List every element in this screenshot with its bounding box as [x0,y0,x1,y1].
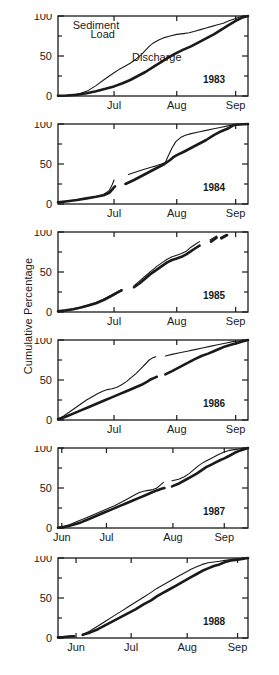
x-tick-label: Sep [226,423,246,435]
series-annotation: Load [90,28,114,40]
panel-1988: 050100JunJulAugSep1988 [0,556,279,660]
year-label: 1985 [203,290,226,301]
x-tick-label: Jul [124,641,138,653]
series-discharge [58,636,74,637]
y-tick-label: 100 [34,556,52,564]
x-tick-label: Sep [214,531,234,543]
series-discharge [134,246,200,288]
panel-1986: 050100JulAugSep1986 [0,338,279,442]
y-tick-label: 50 [40,482,52,494]
plot-1983: 050100JulAugSepSedimentLoadDischarge1983 [0,14,279,118]
x-tick-label: Sep [226,207,246,219]
x-tick-label: Aug [177,641,197,653]
x-tick-label: Sep [226,315,246,327]
panel-1987: 050100JunJulAugSep1987 [0,446,279,550]
y-tick-label: 100 [34,14,52,22]
x-tick-label: Aug [167,315,187,327]
series-sediment-load [58,482,163,527]
y-tick-label: 50 [40,50,52,62]
y-tick-label: 100 [34,230,52,238]
y-tick-label: 50 [40,266,52,278]
y-tick-label: 50 [40,592,52,604]
plot-1985: 050100JulAugSep1985 [0,230,279,334]
series-discharge [58,377,157,419]
panel-1985: 050100JulAugSep1985 [0,230,279,334]
x-tick-label: Aug [163,531,183,543]
series-discharge [172,448,248,486]
x-tick-label: Jun [53,531,71,543]
series-sediment-load [58,290,122,312]
x-tick-label: Aug [167,207,187,219]
year-label: 1987 [203,506,226,517]
series-discharge [58,290,122,311]
y-tick-label: 100 [34,122,52,130]
x-tick-label: Jul [107,315,121,327]
panel-1984: 050100JulAugSep1984 [0,122,279,226]
y-tick-label: 100 [34,446,52,454]
series-discharge [211,238,217,242]
y-tick-label: 0 [46,522,52,534]
series-annotation: Discharge [132,51,182,63]
year-label: 1986 [203,398,226,409]
x-tick-label: Aug [167,423,187,435]
x-tick-label: Jul [99,531,113,543]
y-tick-label: 0 [46,632,52,644]
series-discharge [221,235,227,238]
x-tick-label: Sep [228,641,248,653]
x-tick-label: Jul [107,207,121,219]
cumulative-percentage-figure: Cumulative Percentage 050100JulAugSepSed… [0,0,279,675]
plot-1984: 050100JulAugSep1984 [0,122,279,226]
plot-1987: 050100JunJulAugSep1987 [0,446,279,550]
series-discharge [58,488,164,528]
y-tick-label: 0 [46,306,52,318]
x-tick-label: Sep [226,99,246,111]
series-discharge [165,340,248,374]
x-tick-label: Jul [107,423,121,435]
y-tick-label: 0 [46,90,52,102]
series-sediment-load [58,357,156,419]
year-label: 1983 [203,74,226,85]
x-tick-label: Jul [107,99,121,111]
y-tick-label: 0 [46,414,52,426]
y-tick-label: 50 [40,374,52,386]
series-discharge [125,124,248,184]
year-label: 1988 [203,616,226,627]
y-tick-label: 0 [46,198,52,210]
plot-1988: 050100JunJulAugSep1988 [0,556,279,660]
year-label: 1984 [203,182,226,193]
x-tick-label: Aug [167,99,187,111]
y-tick-label: 50 [40,158,52,170]
plot-1986: 050100JulAugSep1986 [0,338,279,442]
series-discharge [58,186,115,202]
panel-1983: 050100JulAugSepSedimentLoadDischarge1983 [0,14,279,118]
x-tick-label: Jun [67,641,85,653]
y-tick-label: 100 [34,338,52,346]
